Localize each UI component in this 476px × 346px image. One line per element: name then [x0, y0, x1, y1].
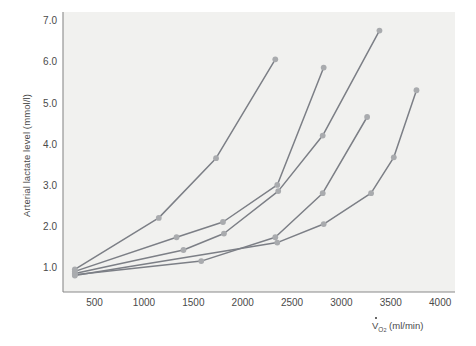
data-point-E-5: [414, 87, 420, 93]
plot-svg: [0, 0, 476, 346]
data-point-C-3: [275, 188, 281, 194]
data-point-E-2: [321, 221, 327, 227]
data-point-C-5: [377, 28, 383, 34]
data-point-D-3: [320, 190, 326, 196]
data-point-A-1: [156, 215, 162, 221]
data-point-D-2: [272, 234, 278, 240]
data-point-D-1: [198, 258, 204, 264]
data-point-E-0: [72, 273, 78, 279]
data-point-E-3: [368, 190, 374, 196]
data-point-C-2: [221, 231, 227, 237]
data-point-A-2: [213, 155, 219, 161]
data-point-B-1: [174, 234, 180, 240]
data-point-E-1: [274, 240, 280, 246]
data-point-E-4: [391, 154, 397, 160]
data-point-B-3: [274, 182, 280, 188]
data-point-C-1: [181, 247, 187, 253]
data-point-C-4: [320, 133, 326, 139]
data-point-A-3: [272, 56, 278, 62]
data-point-D-4: [364, 114, 370, 120]
data-point-B-2: [220, 219, 226, 225]
data-point-B-4: [321, 65, 327, 71]
chart-figure: Arterial lactate level (mmol/l) VO2 (ml/…: [0, 0, 476, 346]
